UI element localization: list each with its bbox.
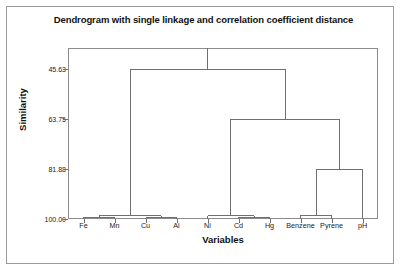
x-tick-mark (301, 219, 302, 223)
y-tick-mark (63, 219, 68, 220)
y-axis-tick-labels: 45.6363.7581.88100.00 (22, 48, 66, 219)
x-tick-mark (115, 219, 116, 223)
dendrogram-plot (68, 48, 378, 219)
dendrogram-link-m2 (146, 218, 177, 219)
y-tick-label: 45.63 (26, 66, 66, 73)
chart-title: Dendrogram with single linkage and corre… (0, 14, 407, 25)
x-tick-mark (270, 219, 271, 223)
x-axis-tick-labels: FeMnCuAlNiCdHgBenzenePyrenepH (68, 221, 378, 235)
y-tick-label: 63.75 (26, 116, 66, 123)
dendrogram-link-m8 (231, 119, 340, 216)
x-axis-title: Variables (68, 234, 378, 245)
y-tick-mark (63, 119, 68, 120)
x-tick-mark (332, 219, 333, 223)
dendrogram-link-m4 (239, 217, 270, 219)
x-tick-mark (363, 219, 364, 223)
x-tick-mark (239, 219, 240, 223)
x-tick-mark (177, 219, 178, 223)
y-tick-mark (63, 69, 68, 70)
x-tick-mark (84, 219, 85, 223)
dendrogram-link-m9 (130, 69, 285, 216)
y-tick-mark (63, 169, 68, 170)
x-tick-mark (146, 219, 147, 223)
dendrogram-tree (68, 48, 378, 219)
dendrogram-link-m1 (84, 217, 115, 219)
y-tick-label: 81.88 (26, 166, 66, 173)
dendrogram-link-m6 (301, 215, 332, 219)
x-tick-mark (208, 219, 209, 223)
y-tick-label: 100.00 (26, 216, 66, 223)
dendrogram-link-m7 (316, 169, 363, 219)
